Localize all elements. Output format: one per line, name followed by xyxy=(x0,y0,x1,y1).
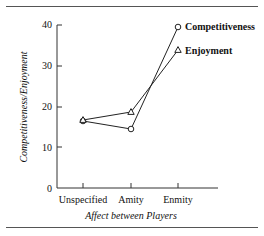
data-point-enjoyment-enmity xyxy=(175,47,181,53)
data-point-competitiveness-amity xyxy=(128,126,134,132)
series-label-competitiveness: Competitiveness xyxy=(185,21,255,32)
x-category-label-enmity: Enmity xyxy=(163,194,192,205)
y-tick-label-20: 20 xyxy=(42,101,52,112)
x-category-label-amity: Amity xyxy=(118,194,144,205)
figure-container: Competitiveness/Enjoyment 40 30 20 10 0 xyxy=(0,0,264,236)
x-axis-title: Affect between Players xyxy=(84,210,177,221)
data-point-competitiveness-enmity xyxy=(175,24,181,30)
y-tick-label-10: 10 xyxy=(42,142,52,153)
x-category-label-unspecified: Unspecified xyxy=(59,194,107,205)
series-label-enjoyment: Enjoyment xyxy=(185,45,233,56)
line-chart: Competitiveness/Enjoyment 40 30 20 10 0 xyxy=(0,0,264,236)
y-axis-title: Competitiveness/Enjoyment xyxy=(18,51,29,162)
y-tick-label-0: 0 xyxy=(47,183,52,194)
y-tick-label-40: 40 xyxy=(42,19,52,30)
y-tick-label-30: 30 xyxy=(42,60,52,71)
